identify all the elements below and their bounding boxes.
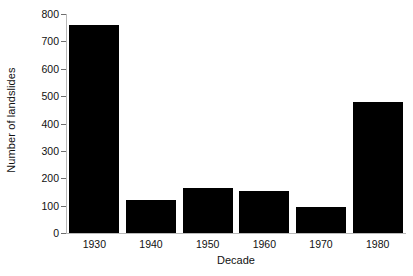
y-axis-tick-mark [61, 233, 66, 234]
y-axis-tick-mark [61, 151, 66, 152]
y-axis-tick-mark [61, 69, 66, 70]
y-axis-tick-label: 100 [41, 200, 59, 212]
y-axis-title-text: Number of landslides [5, 67, 17, 172]
y-axis-tick-mark [61, 41, 66, 42]
y-axis-tick-mark [61, 14, 66, 15]
y-axis-tick-mark [61, 178, 66, 179]
bar [183, 188, 233, 233]
y-axis-tick-label: 400 [41, 118, 59, 130]
x-axis-title: Decade [66, 254, 406, 266]
x-axis-tick-label: 1940 [139, 238, 162, 250]
bar [239, 191, 289, 233]
y-axis-tick-mark [61, 124, 66, 125]
bar [296, 207, 346, 233]
y-axis-tick-mark [61, 206, 66, 207]
y-axis-title: Number of landslides [0, 0, 22, 240]
x-axis-tick-label: 1930 [83, 238, 106, 250]
y-axis-tick-label: 600 [41, 63, 59, 75]
y-axis-line [66, 14, 67, 233]
y-axis-tick-label: 500 [41, 90, 59, 102]
bar [69, 25, 119, 233]
bar [353, 102, 403, 233]
x-axis-tick-label: 1980 [366, 238, 389, 250]
y-axis-tick-mark [61, 96, 66, 97]
x-axis-line [66, 233, 406, 234]
y-axis-tick-label: 200 [41, 172, 59, 184]
y-axis-tick-label: 800 [41, 8, 59, 20]
y-axis-tick-label: 300 [41, 145, 59, 157]
plot-area: 0100200300400500600700800 19301940195019… [66, 14, 406, 233]
y-axis-tick-label: 0 [53, 227, 59, 239]
y-axis-tick-label: 700 [41, 35, 59, 47]
x-axis-tick-label: 1960 [253, 238, 276, 250]
x-axis-tick-label: 1950 [196, 238, 219, 250]
bar [126, 200, 176, 233]
x-axis-tick-label: 1970 [309, 238, 332, 250]
bar-chart-figure: Number of landslides 0100200300400500600… [0, 0, 413, 276]
